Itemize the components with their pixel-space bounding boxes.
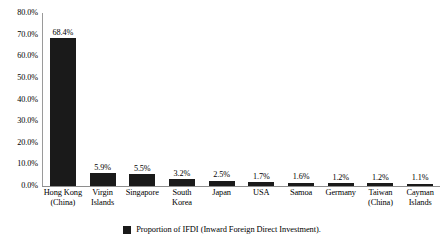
y-axis-tick-label: 0.0% bbox=[0, 182, 38, 190]
bar-chart: 80.0%70.0%60.0%50.0%40.0%30.0%20.0%10.0%… bbox=[0, 0, 444, 248]
bar-value-label: 1.6% bbox=[293, 172, 310, 181]
x-axis-category-labels: Hong Kong(China)VirginIslandsSingaporeSo… bbox=[43, 188, 440, 214]
legend-label: Proportion of IFDI (Inward Foreign Direc… bbox=[136, 225, 321, 235]
bars-container: 68.4%5.9%5.5%3.2%2.5%1.7%1.6%1.2%1.2%1.1… bbox=[43, 13, 440, 186]
bar-slot: 1.1% bbox=[400, 13, 440, 186]
bar-slot: 1.7% bbox=[242, 13, 282, 186]
x-axis-category-label: Samoa bbox=[281, 188, 321, 198]
y-axis-tick-label: 30.0% bbox=[0, 117, 38, 125]
x-axis-line bbox=[42, 186, 440, 187]
x-axis-category-label-line: USA bbox=[242, 188, 282, 198]
x-axis-category-label-line: Japan bbox=[202, 188, 242, 198]
x-axis-category-label: Japan bbox=[202, 188, 242, 198]
bar-value-label: 5.9% bbox=[94, 163, 111, 172]
x-axis-category-label-line: Samoa bbox=[281, 188, 321, 198]
bar[interactable] bbox=[169, 179, 195, 186]
x-axis-category-label-line: Cayman bbox=[400, 188, 440, 198]
y-axis-tick-label: 80.0% bbox=[0, 9, 38, 17]
bar-slot: 2.5% bbox=[202, 13, 242, 186]
bar-slot: 5.5% bbox=[122, 13, 162, 186]
x-axis-category-label-line: Singapore bbox=[122, 188, 162, 198]
bar-value-label: 1.7% bbox=[253, 172, 270, 181]
x-axis-category-label: Singapore bbox=[122, 188, 162, 198]
x-axis-category-label-line: Korea bbox=[162, 198, 202, 208]
y-axis-tick-label: 70.0% bbox=[0, 31, 38, 39]
x-axis-category-label-line: (China) bbox=[361, 198, 401, 208]
bar[interactable] bbox=[407, 184, 433, 186]
x-axis-category-label-line: Taiwan bbox=[361, 188, 401, 198]
bar-slot: 1.2% bbox=[321, 13, 361, 186]
x-axis-category-label: CaymanIslands bbox=[400, 188, 440, 208]
bar-slot: 68.4% bbox=[43, 13, 83, 186]
bar[interactable] bbox=[328, 183, 354, 186]
x-axis-category-label-line: Islands bbox=[400, 198, 440, 208]
bar-slot: 5.9% bbox=[83, 13, 123, 186]
x-axis-category-label: VirginIslands bbox=[83, 188, 123, 208]
x-axis-category-label-line: (China) bbox=[43, 198, 83, 208]
x-axis-category-label-line: South bbox=[162, 188, 202, 198]
bar-value-label: 3.2% bbox=[174, 169, 191, 178]
y-axis-tick-label: 10.0% bbox=[0, 160, 38, 168]
chart-legend: Proportion of IFDI (Inward Foreign Direc… bbox=[0, 225, 444, 235]
x-axis-category-label-line: Islands bbox=[83, 198, 123, 208]
bar-value-label: 2.5% bbox=[213, 170, 230, 179]
x-axis-category-label: SouthKorea bbox=[162, 188, 202, 208]
x-axis-category-label-line: Virgin bbox=[83, 188, 123, 198]
x-axis-category-label-line: Hong Kong bbox=[43, 188, 83, 198]
y-axis-tick-label: 60.0% bbox=[0, 52, 38, 60]
bar[interactable] bbox=[288, 183, 314, 186]
bar-value-label: 5.5% bbox=[134, 164, 151, 173]
bar[interactable] bbox=[90, 173, 116, 186]
bar-value-label: 1.2% bbox=[332, 173, 349, 182]
x-axis-category-label: Germany bbox=[321, 188, 361, 198]
bar-value-label: 1.2% bbox=[372, 173, 389, 182]
plot-area: 80.0%70.0%60.0%50.0%40.0%30.0%20.0%10.0%… bbox=[0, 0, 444, 215]
bar[interactable] bbox=[129, 174, 155, 186]
x-axis-category-label-line: Germany bbox=[321, 188, 361, 198]
bar-slot: 1.2% bbox=[361, 13, 401, 186]
bar[interactable] bbox=[367, 183, 393, 186]
bar-value-label: 68.4% bbox=[53, 28, 74, 37]
y-axis-tick-label: 40.0% bbox=[0, 95, 38, 103]
x-axis-category-label: Hong Kong(China) bbox=[43, 188, 83, 208]
x-axis-category-label: Taiwan(China) bbox=[361, 188, 401, 208]
y-axis-tick-label: 20.0% bbox=[0, 139, 38, 147]
y-axis-tick-label: 50.0% bbox=[0, 74, 38, 82]
bar-value-label: 1.1% bbox=[412, 173, 429, 182]
x-axis-category-label: USA bbox=[242, 188, 282, 198]
bar[interactable] bbox=[248, 182, 274, 186]
bar[interactable] bbox=[50, 38, 76, 186]
bar-slot: 3.2% bbox=[162, 13, 202, 186]
legend-swatch-icon bbox=[123, 226, 131, 234]
y-axis-tick-labels: 80.0%70.0%60.0%50.0%40.0%30.0%20.0%10.0%… bbox=[0, 0, 38, 187]
bar-slot: 1.6% bbox=[281, 13, 321, 186]
bar[interactable] bbox=[209, 181, 235, 186]
